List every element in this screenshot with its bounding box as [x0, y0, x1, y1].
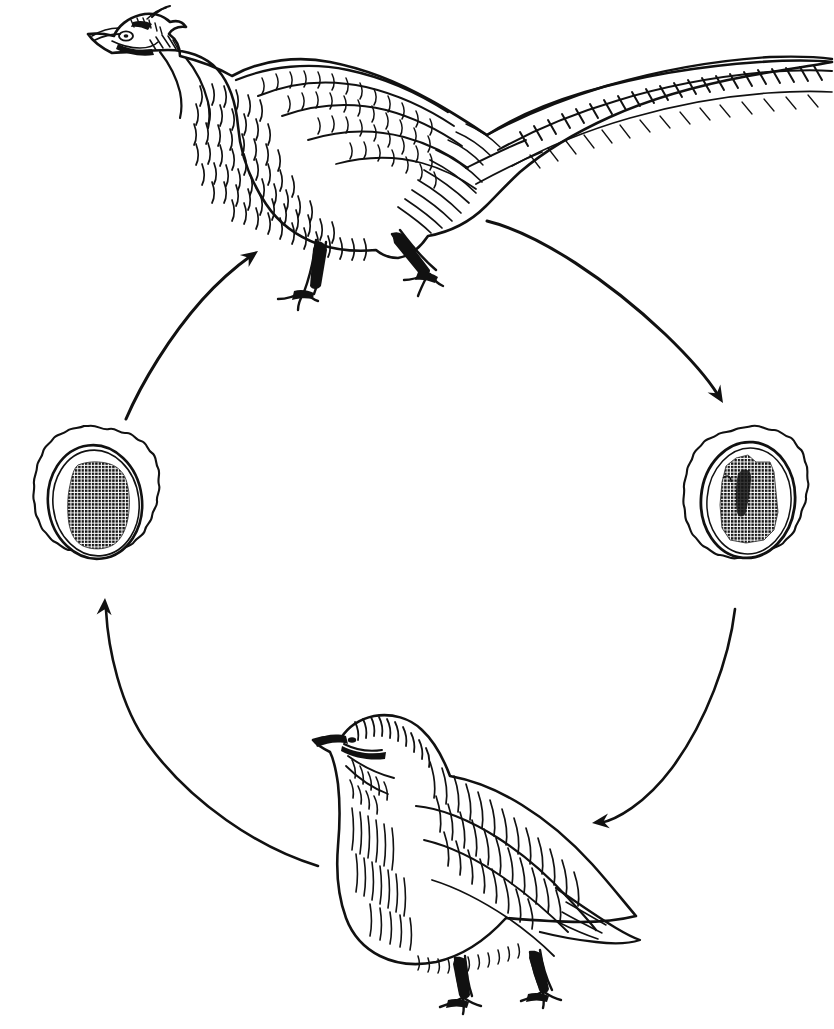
nucleus — [68, 462, 130, 549]
cycle-diagram-svg — [0, 0, 834, 1029]
nucleus — [720, 455, 778, 543]
figure-canvas — [0, 0, 834, 1029]
